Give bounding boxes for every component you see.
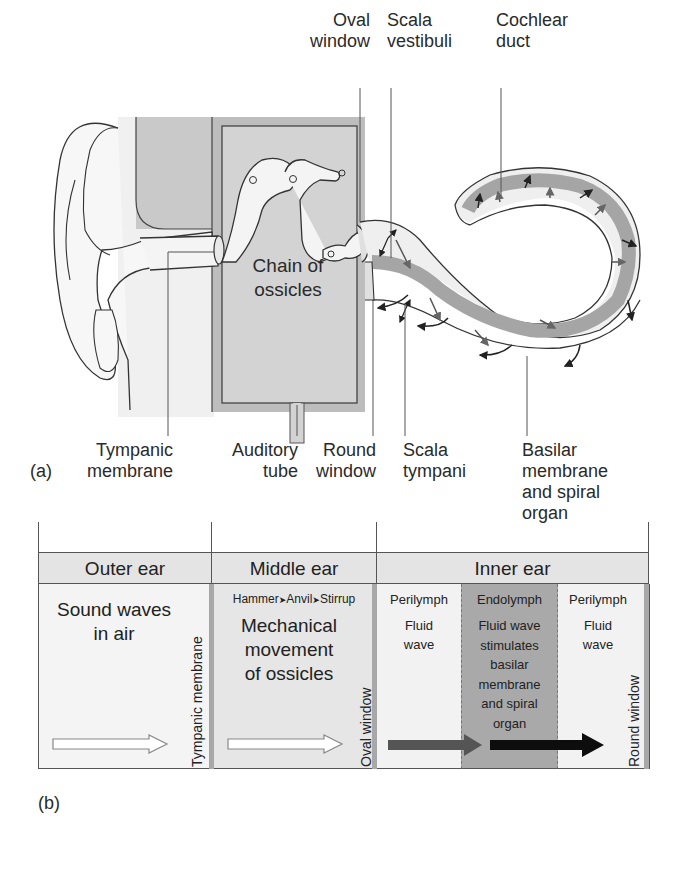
label-chain-of-ossicles: Chain of ossicles bbox=[228, 254, 348, 302]
endolymph-text: Fluid wave stimulates basilar membrane a… bbox=[462, 616, 557, 733]
label-tympanic-membrane: Tympanic membrane bbox=[60, 440, 173, 482]
label-scala-tympani: Scala tympani bbox=[403, 440, 466, 482]
divider bbox=[376, 522, 377, 552]
ossicle-stirrup: Stirrup bbox=[320, 592, 355, 606]
mechanical-movement-arrow-icon bbox=[226, 734, 346, 754]
header-inner-ear: Inner ear bbox=[376, 552, 649, 584]
round-window bbox=[365, 262, 374, 300]
ear-pathway-table: Outer ear Middle ear Inner ear Sound wav… bbox=[38, 552, 649, 769]
label-cochlear-duct: Cochlear duct bbox=[496, 10, 568, 52]
panel-b-label: (b) bbox=[38, 793, 60, 814]
ossicle-hammer: Hammer bbox=[233, 592, 279, 606]
perilymph-text-2: Fluid wave bbox=[558, 616, 638, 654]
header-outer-ear: Outer ear bbox=[38, 552, 211, 584]
perilymph-title-2: Perilymph bbox=[558, 592, 638, 607]
label-auditory-tube: Auditory tube bbox=[210, 440, 298, 482]
label-basilar-membrane: Basilar membrane and spiral organ bbox=[522, 440, 608, 524]
sound-wave-arrow-icon bbox=[51, 734, 171, 754]
label-round-window: Round window bbox=[300, 440, 376, 482]
middle-ear-text: Mechanical movement of ossicles bbox=[214, 614, 364, 686]
tympanic-membrane-boundary-label: Tympanic membrane bbox=[189, 636, 205, 767]
middle-ear-cell: Hammer➤Anvil➤Stirrup Mechanical movement… bbox=[214, 584, 374, 769]
ear-canal bbox=[140, 236, 218, 270]
ossicle-chain: Hammer➤Anvil➤Stirrup bbox=[214, 592, 374, 606]
divider bbox=[38, 522, 39, 552]
divider bbox=[211, 522, 212, 552]
round-window-bar bbox=[644, 584, 650, 769]
bone-region-upper bbox=[136, 117, 212, 229]
header-middle-ear: Middle ear bbox=[211, 552, 376, 584]
perilymph-title-1: Perilymph bbox=[377, 592, 461, 607]
fluid-wave-arrow-black-icon bbox=[488, 732, 608, 758]
label-oval-window: Oval window bbox=[300, 10, 370, 52]
fluid-wave-arrow-gray-icon bbox=[386, 732, 486, 758]
round-window-boundary-label: Round window bbox=[626, 675, 642, 767]
label-scala-vestibuli: Scala vestibuli bbox=[387, 10, 452, 52]
outer-ear-text: Sound waves in air bbox=[39, 598, 189, 646]
panel-a-label: (a) bbox=[30, 461, 52, 482]
outer-ear-cell: Sound waves in air Tympanic membrane bbox=[38, 584, 211, 769]
ossicle-anvil: Anvil bbox=[286, 592, 312, 606]
divider bbox=[648, 522, 649, 552]
endolymph-title: Endolymph bbox=[462, 592, 557, 607]
perilymph-text-1: Fluid wave bbox=[377, 616, 461, 654]
chain-arrow-icon: ➤ bbox=[312, 595, 320, 605]
